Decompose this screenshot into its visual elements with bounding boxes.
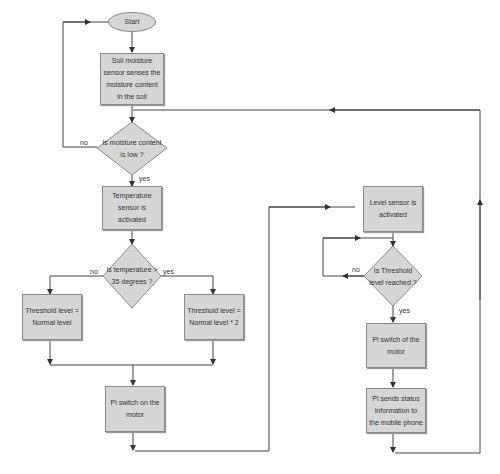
decision-threshold-label: Is Threshold level reached ? xyxy=(368,265,418,289)
decision-threshold-node: Is Threshold level reached ? xyxy=(368,256,418,298)
soil-sensor-node: Soil moisture sensor senses the moisture… xyxy=(100,53,164,105)
motor-on-label: Pi switch on the motor xyxy=(108,397,162,421)
level-sensor-node: Level sensor is activated xyxy=(363,186,423,232)
temperature-yes-label: yes xyxy=(163,268,174,275)
temperature-no-label: no xyxy=(90,268,98,275)
send-status-label: Pi sends status information to the mobil… xyxy=(369,393,423,429)
decision-moisture-label: Is moisture content is low ? xyxy=(102,137,162,161)
threshold-normal-node: Threshold level = Normal level xyxy=(22,294,82,340)
temperature-sensor-node: Temperature sensor is activated xyxy=(102,186,162,230)
moisture-yes-label: yes xyxy=(139,175,150,182)
threshold-double-label: Threshold level = Normal level * 2 xyxy=(187,305,241,329)
start-label: Start xyxy=(125,16,140,28)
motor-off-label: Pi switch of the motor xyxy=(369,334,423,358)
moisture-no-label: no xyxy=(80,139,88,146)
threshold-yes-label: yes xyxy=(399,307,410,314)
threshold-no-label: no xyxy=(352,266,360,273)
start-node: Start xyxy=(108,12,156,32)
threshold-double-node: Threshold level = Normal level * 2 xyxy=(184,294,244,340)
temperature-sensor-label: Temperature sensor is activated xyxy=(105,190,159,226)
send-status-node: Pi sends status information to the mobil… xyxy=(366,388,426,433)
decision-temperature-node: Is temperature > 35 degrees ? xyxy=(106,256,158,296)
motor-off-node: Pi switch of the motor xyxy=(366,323,426,368)
decision-moisture-node: Is moisture content is low ? xyxy=(102,128,162,170)
decision-temperature-label: Is temperature > 35 degrees ? xyxy=(106,264,158,288)
threshold-normal-label: Threshold level = Normal level xyxy=(25,305,79,329)
soil-sensor-label: Soil moisture sensor senses the moisture… xyxy=(103,55,161,103)
level-sensor-label: Level sensor is activated xyxy=(366,197,420,221)
motor-on-node: Pi switch on the motor xyxy=(105,386,165,432)
